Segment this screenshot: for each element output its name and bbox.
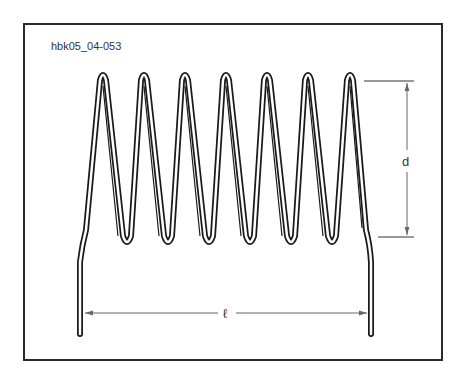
coil-diagram: d ℓ: [0, 0, 469, 365]
length-dimension: ℓ: [85, 306, 367, 321]
diameter-label: d: [402, 154, 409, 169]
coil-wire: [80, 75, 371, 334]
length-label: ℓ: [223, 306, 228, 321]
diameter-dimension: d: [364, 81, 414, 237]
